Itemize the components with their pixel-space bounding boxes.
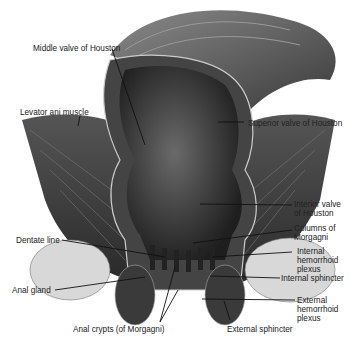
- rectum-anatomy-diagram: Middle valve of Houston Levator ani musc…: [0, 0, 354, 347]
- label-external-hemorrhoid-line2: hemorrhoid: [297, 305, 338, 314]
- label-internal-sphincter: Internal sphincter: [281, 274, 344, 283]
- label-external-hemorrhoid-line3: plexus: [297, 314, 321, 323]
- label-internal-hemorrhoid-line2: hemorrhoid: [297, 256, 338, 265]
- label-superior-valve-of-houston: Superior valve of Houston: [248, 119, 342, 128]
- label-internal-hemorrhoid-line1: Internal: [297, 247, 324, 256]
- label-internal-hemorrhoid-line3: plexus: [297, 265, 321, 274]
- label-levator-ani-muscle: Levator ani muscle: [20, 108, 89, 117]
- label-external-hemorrhoid-line1: External: [297, 296, 327, 305]
- label-columns-of-morgagni-line2: Morgagni: [294, 233, 328, 242]
- label-inferior-valve-line2: of Houston: [294, 209, 334, 218]
- label-external-sphincter: External sphincter: [227, 325, 293, 334]
- label-anal-crypts: Anal crypts (of Morgagni): [73, 325, 164, 334]
- label-columns-of-morgagni-line1: Columns of: [294, 224, 335, 233]
- label-anal-gland: Anal gland: [12, 286, 51, 295]
- label-inferior-valve-line1: Interior valve: [294, 200, 341, 209]
- label-middle-valve-of-houston: Middle valve of Houston: [33, 44, 120, 53]
- label-dentate-line: Dentate line: [16, 236, 60, 245]
